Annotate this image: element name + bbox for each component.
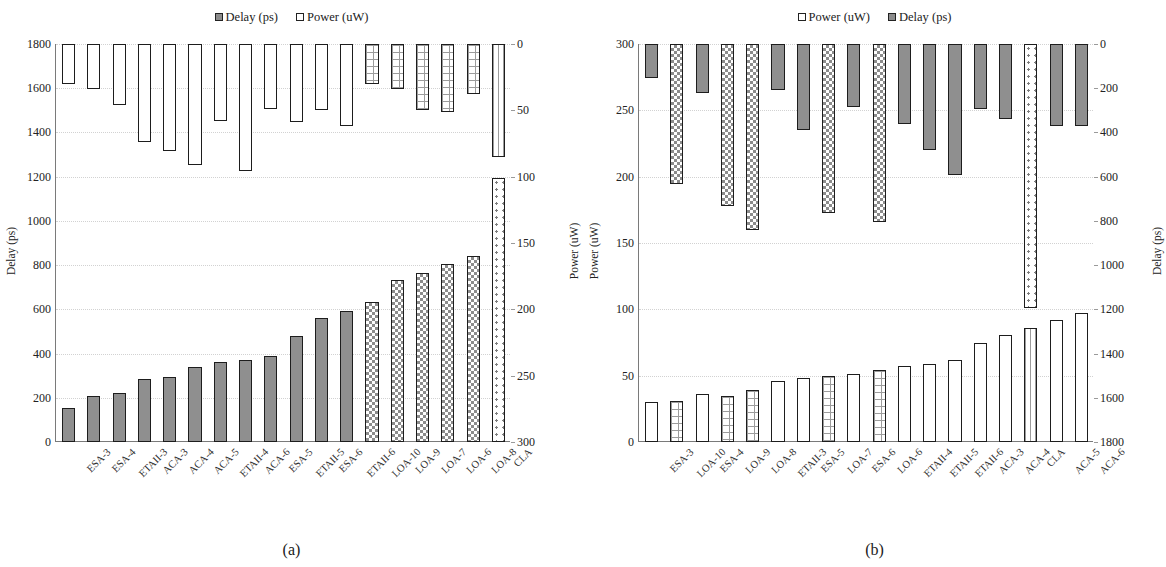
bar-power[interactable]	[898, 366, 911, 442]
bar-delay[interactable]	[696, 44, 709, 93]
bar-power[interactable]	[239, 44, 252, 171]
legend-item[interactable]: Delay (ps)	[888, 10, 951, 25]
y-axis-tick-label: 1000	[27, 215, 56, 227]
y-axis-tick-label: 1200	[27, 171, 56, 183]
bar-delay[interactable]	[214, 362, 227, 442]
bar-delay[interactable]	[670, 44, 683, 184]
bar-delay[interactable]	[873, 44, 886, 222]
bar-delay[interactable]	[797, 44, 810, 130]
legend-item[interactable]: Power (uW)	[798, 10, 870, 25]
bar-delay[interactable]	[898, 44, 911, 124]
bar-delay[interactable]	[1024, 44, 1037, 308]
bar-delay[interactable]	[746, 44, 759, 230]
legend-item[interactable]: Power (uW)	[296, 10, 368, 25]
legend-swatch-power-icon	[798, 13, 806, 21]
bar-delay[interactable]	[441, 264, 454, 442]
x-axis-category-label: ESA-3	[85, 447, 113, 475]
bar-power[interactable]	[87, 44, 100, 89]
bar-power[interactable]	[315, 44, 328, 110]
bar-power[interactable]	[340, 44, 353, 126]
y2-axis-tick-label: 200	[510, 303, 535, 315]
x-axis-category-label: CLA	[513, 447, 535, 469]
bar-delay[interactable]	[416, 273, 429, 442]
bar-power[interactable]	[290, 44, 303, 122]
bar-delay[interactable]	[721, 44, 734, 206]
bar-power[interactable]	[645, 402, 658, 442]
bar-power[interactable]	[873, 370, 886, 442]
bar-power[interactable]	[138, 44, 151, 142]
chart-panel-b: Power (uW)Delay (ps)05010015020025030002…	[583, 0, 1166, 567]
bar-power[interactable]	[113, 44, 126, 105]
bar-delay[interactable]	[974, 44, 987, 109]
bar-power[interactable]	[999, 335, 1012, 442]
bar-power[interactable]	[391, 44, 404, 89]
bar-delay[interactable]	[163, 377, 176, 442]
bar-power[interactable]	[467, 44, 480, 94]
bar-power[interactable]	[670, 401, 683, 442]
bar-power[interactable]	[188, 44, 201, 165]
bar-delay[interactable]	[264, 356, 277, 442]
bar-power[interactable]	[365, 44, 378, 84]
bar-power[interactable]	[1075, 313, 1088, 442]
y2-axis-tick-label: 1600	[1093, 392, 1124, 404]
x-axis-category-label: LOA-6	[896, 447, 925, 476]
bar-power[interactable]	[492, 44, 505, 157]
bar-delay[interactable]	[315, 318, 328, 442]
bar-delay[interactable]	[948, 44, 961, 175]
bar-power[interactable]	[923, 364, 936, 442]
bar-delay[interactable]	[365, 302, 378, 442]
bar-power[interactable]	[1050, 320, 1063, 442]
y-axis-tick-label: 0	[45, 436, 56, 448]
bar-power[interactable]	[1024, 328, 1037, 442]
bar-delay[interactable]	[847, 44, 860, 107]
bar-delay[interactable]	[62, 408, 75, 442]
plot-area: 0501001502002503000200400600800100012001…	[638, 44, 1093, 442]
bar-power[interactable]	[822, 376, 835, 442]
bar-delay[interactable]	[188, 367, 201, 442]
gridline	[639, 309, 1093, 310]
bar-delay[interactable]	[391, 280, 404, 442]
bar-delay[interactable]	[923, 44, 936, 150]
bar-delay[interactable]	[999, 44, 1012, 119]
bar-delay[interactable]	[822, 44, 835, 213]
bar-power[interactable]	[62, 44, 75, 84]
plot-wrapper: 0501001502002503000200400600800100012001…	[583, 38, 1166, 468]
legend-item[interactable]: Delay (ps)	[215, 10, 278, 25]
bar-power[interactable]	[797, 378, 810, 442]
y2-axis-tick-label: 100	[510, 171, 535, 183]
y2-axis-tick-label: 400	[1093, 126, 1118, 138]
bar-power[interactable]	[948, 360, 961, 442]
bar-delay[interactable]	[239, 360, 252, 442]
bar-power[interactable]	[214, 44, 227, 121]
bar-power[interactable]	[721, 396, 734, 442]
bar-delay[interactable]	[87, 396, 100, 442]
bar-power[interactable]	[974, 343, 987, 443]
x-axis-category-label: ACA-6	[1098, 447, 1127, 476]
bar-power[interactable]	[771, 381, 784, 442]
bar-delay[interactable]	[1050, 44, 1063, 126]
bar-power[interactable]	[264, 44, 277, 109]
panel-caption: (b)	[583, 541, 1166, 559]
bar-power[interactable]	[696, 394, 709, 442]
y2-axis-tick-label: 250	[510, 370, 535, 382]
bar-delay[interactable]	[290, 336, 303, 442]
y2-axis-tick-label: 300	[510, 436, 535, 448]
bar-power[interactable]	[847, 374, 860, 442]
bar-delay[interactable]	[138, 379, 151, 442]
bar-power[interactable]	[441, 44, 454, 112]
bar-delay[interactable]	[492, 178, 505, 442]
legend-swatch-delay-icon	[215, 13, 223, 21]
bar-power[interactable]	[416, 44, 429, 110]
bar-delay[interactable]	[1075, 44, 1088, 126]
bar-delay[interactable]	[467, 256, 480, 442]
bar-delay[interactable]	[113, 393, 126, 442]
y-axis-title: Delay (ps)	[5, 206, 17, 296]
bar-delay[interactable]	[771, 44, 784, 90]
bar-delay[interactable]	[645, 44, 658, 78]
bar-delay[interactable]	[340, 311, 353, 442]
chart-panel-a: Delay (ps)Power (uW)02004006008001000120…	[0, 0, 583, 567]
plot-area: 0200400600800100012001400160018000501001…	[55, 44, 510, 442]
bar-power[interactable]	[163, 44, 176, 151]
chart-legend: Power (uW)Delay (ps)	[583, 6, 1166, 28]
bar-power[interactable]	[746, 390, 759, 442]
